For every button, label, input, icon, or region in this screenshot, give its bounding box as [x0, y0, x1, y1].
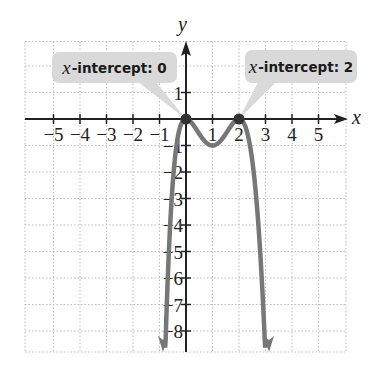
x-tick-label: 2	[234, 124, 244, 145]
intercept-point-0	[181, 114, 192, 125]
y-axis-label: y	[176, 13, 187, 36]
x-tick-label: −4	[70, 124, 91, 145]
x-tick-label: −2	[123, 124, 143, 145]
callout-x-intercept-0: x -intercept: 0	[52, 52, 177, 83]
callout-text: -intercept: 0	[72, 60, 167, 76]
curve-right-branch	[213, 119, 268, 346]
x-tick-label: 1	[208, 124, 218, 145]
x-tick-label: −3	[96, 124, 116, 145]
intercept-point-2	[234, 114, 245, 125]
x-axis-label: x	[351, 106, 361, 128]
callout-variable: x	[62, 57, 70, 79]
callout-variable: x	[249, 56, 257, 78]
x-tick-label: 5	[314, 124, 324, 145]
y-tick-label: 1	[174, 83, 184, 104]
y-tick-label: −4	[163, 215, 184, 236]
graph-figure: −5−4−3−2−1123451−1−2−3−4−5−6−7−8 y x x -…	[0, 0, 375, 374]
callout-pointer-2	[239, 82, 276, 119]
y-tick-label: −5	[163, 242, 183, 263]
x-tick-label: 3	[261, 124, 271, 145]
x-tick-label: 4	[287, 124, 297, 145]
callout-x-intercept-2: x -intercept: 2	[245, 50, 357, 83]
callout-text: -intercept: 2	[258, 59, 353, 75]
y-tick-label: −1	[163, 136, 183, 157]
x-tick-label: −5	[43, 124, 63, 145]
axes	[25, 41, 348, 352]
